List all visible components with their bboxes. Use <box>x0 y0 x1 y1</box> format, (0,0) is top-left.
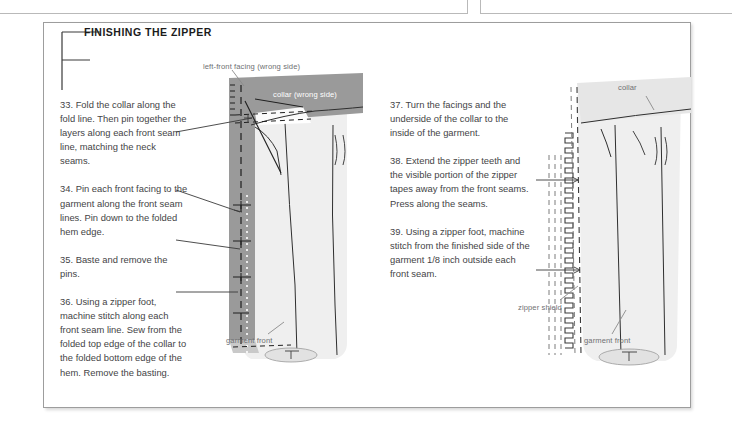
dropcap-letter-f-icon <box>60 30 116 92</box>
illustration-collar-zipper-basted <box>185 55 375 380</box>
page-title: FINISHING THE ZIPPER <box>84 26 212 38</box>
label-collar-right: collar <box>618 83 637 92</box>
label-zipper-shield: zipper shield <box>518 303 562 312</box>
left-front-facing-strip <box>229 78 255 340</box>
garment-body-shape <box>243 110 347 359</box>
label-garment-front-right: garment front <box>584 336 630 345</box>
step-34: 34. Pin each front facing to the garment… <box>60 182 188 238</box>
label-garment-front-left: garment front <box>226 336 272 345</box>
step-35: 35. Baste and remove the pins. <box>60 253 188 281</box>
label-left-front-facing: left-front facing (wrong side) <box>203 62 300 71</box>
zipper-teeth <box>565 133 573 348</box>
step-33: 33. Fold the collar along the fold line.… <box>60 98 188 168</box>
cut-off-panel-left <box>0 0 468 14</box>
steps-column-left: 33. Fold the collar along the fold line.… <box>60 98 188 380</box>
garment-body-shape <box>577 89 681 361</box>
step-36: 36. Using a zipper foot, machine stitch … <box>60 295 188 380</box>
illustration-finished-topstitch <box>505 55 695 380</box>
cut-off-panel-right <box>480 0 732 14</box>
label-collar-wrong-side: collar (wrong side) <box>273 90 337 99</box>
